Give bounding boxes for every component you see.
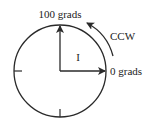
top-label: 100 grads — [38, 8, 81, 20]
right-label: 0 grads — [110, 65, 142, 77]
grads-diagram: 100 grads 0 grads CCW I — [0, 0, 151, 123]
quadrant-label: I — [76, 51, 80, 63]
direction-label: CCW — [110, 30, 136, 42]
